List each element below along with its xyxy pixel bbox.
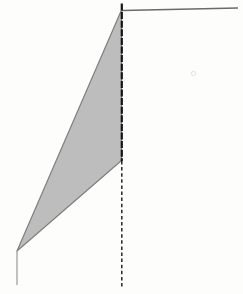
top-horizontal-line <box>122 8 238 11</box>
diagram-svg <box>0 0 243 294</box>
shaded-triangle <box>17 10 122 251</box>
figure-canvas <box>0 0 243 294</box>
scan-smudge <box>191 71 195 75</box>
